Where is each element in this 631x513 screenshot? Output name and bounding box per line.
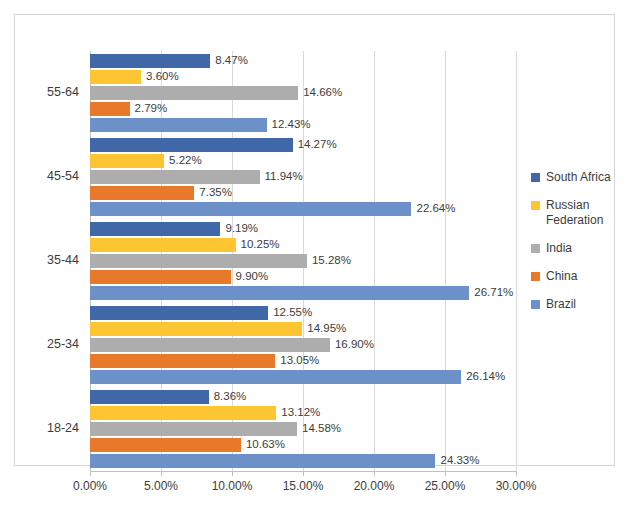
legend-swatch-icon: [531, 272, 540, 281]
category-label-18-24: 18-24: [47, 421, 79, 435]
x-tick-label: 20.00%: [354, 479, 395, 493]
category-label-55-64: 55-64: [47, 85, 79, 99]
bar-value-label: 2.79%: [135, 103, 168, 115]
bar-group-item[interactable]: 22.64%: [90, 202, 456, 216]
legend-swatch-icon: [531, 201, 540, 210]
bar-group-item[interactable]: 15.28%: [90, 254, 351, 268]
bar-value-label: 14.27%: [298, 139, 337, 151]
bar-group-item[interactable]: 14.58%: [90, 422, 341, 436]
bar-brazil[interactable]: [90, 454, 435, 468]
bar-group-item[interactable]: 9.90%: [90, 270, 268, 284]
bar-value-label: 14.58%: [302, 423, 341, 435]
bar-group-item[interactable]: 5.22%: [90, 154, 202, 168]
bar-china[interactable]: [90, 102, 130, 116]
bar-brazil[interactable]: [90, 202, 411, 216]
bar-group-item[interactable]: 8.36%: [90, 390, 246, 404]
bar-group-item[interactable]: 24.33%: [90, 454, 480, 468]
bar-group-item[interactable]: 3.60%: [90, 70, 179, 84]
legend-label: China: [546, 269, 577, 284]
bar-south-africa[interactable]: [90, 54, 210, 68]
bar-india[interactable]: [90, 86, 298, 100]
bar-group-item[interactable]: 10.63%: [90, 438, 285, 452]
bar-group-item[interactable]: 12.55%: [90, 306, 312, 320]
bar-value-label: 8.36%: [214, 391, 247, 403]
bar-russian-federation[interactable]: [90, 238, 236, 252]
legend-swatch-icon: [531, 244, 540, 253]
bar-china[interactable]: [90, 186, 194, 200]
x-tick: [516, 471, 517, 476]
x-tick-label: 10.00%: [212, 479, 253, 493]
bar-china[interactable]: [90, 270, 231, 284]
bar-value-label: 7.35%: [199, 187, 232, 199]
bar-south-africa[interactable]: [90, 222, 220, 236]
bar-value-label: 13.05%: [280, 355, 319, 367]
bar-india[interactable]: [90, 422, 297, 436]
bar-group-item[interactable]: 9.19%: [90, 222, 258, 236]
x-tick-label: 0.00%: [73, 479, 107, 493]
bar-value-label: 14.66%: [303, 87, 342, 99]
bar-south-africa[interactable]: [90, 306, 268, 320]
bar-china[interactable]: [90, 354, 275, 368]
bar-group-item[interactable]: 7.35%: [90, 186, 232, 200]
legend-label: Brazil: [546, 297, 576, 312]
bar-value-label: 16.90%: [335, 339, 374, 351]
bar-value-label: 14.95%: [307, 323, 346, 335]
legend-swatch-icon: [531, 300, 540, 309]
category-band: 8.47%3.60%14.66%2.79%12.43%: [90, 51, 516, 135]
bar-value-label: 26.71%: [474, 287, 513, 299]
category-band: 9.19%10.25%15.28%9.90%26.71%: [90, 219, 516, 303]
bar-group-item[interactable]: 26.14%: [90, 370, 505, 384]
bar-group-item[interactable]: 16.90%: [90, 338, 374, 352]
bar-group-item[interactable]: 8.47%: [90, 54, 248, 68]
bar-value-label: 24.33%: [440, 455, 479, 467]
bar-india[interactable]: [90, 170, 260, 184]
x-tick-label: 25.00%: [425, 479, 466, 493]
bar-group-item[interactable]: 13.05%: [90, 354, 319, 368]
plot-area: 8.47%3.60%14.66%2.79%12.43%14.27%5.22%11…: [90, 51, 516, 471]
bar-group-item[interactable]: 14.66%: [90, 86, 342, 100]
bar-value-label: 5.22%: [169, 155, 202, 167]
y-axis-category-labels: 55-6445-5435-4425-3418-24: [15, 51, 79, 471]
bar-value-label: 11.94%: [265, 171, 303, 183]
bar-value-label: 22.64%: [416, 203, 455, 215]
legend-item-south-africa[interactable]: South Africa: [531, 170, 615, 185]
category-label-45-54: 45-54: [47, 169, 79, 183]
legend-item-brazil[interactable]: Brazil: [531, 297, 615, 312]
bar-group-item[interactable]: 12.43%: [90, 118, 311, 132]
x-tick: [445, 471, 446, 476]
bar-group-item[interactable]: 13.12%: [90, 406, 320, 420]
bar-brazil[interactable]: [90, 118, 267, 132]
bar-value-label: 3.60%: [146, 71, 179, 83]
category-band: 14.27%5.22%11.94%7.35%22.64%: [90, 135, 516, 219]
bar-brazil[interactable]: [90, 370, 461, 384]
x-tick-label: 30.00%: [496, 479, 537, 493]
legend-swatch-icon: [531, 173, 540, 182]
bar-group-item[interactable]: 2.79%: [90, 102, 167, 116]
category-label-25-34: 25-34: [47, 337, 79, 351]
x-tick: [303, 471, 304, 476]
bar-russian-federation[interactable]: [90, 154, 164, 168]
bar-value-label: 13.12%: [281, 407, 320, 419]
bar-brazil[interactable]: [90, 286, 469, 300]
legend-item-china[interactable]: China: [531, 269, 615, 284]
legend-item-india[interactable]: India: [531, 241, 615, 256]
bar-group-item[interactable]: 26.71%: [90, 286, 513, 300]
bar-russian-federation[interactable]: [90, 406, 276, 420]
x-tick-label: 5.00%: [144, 479, 178, 493]
bar-south-africa[interactable]: [90, 138, 293, 152]
bar-india[interactable]: [90, 254, 307, 268]
x-tick: [232, 471, 233, 476]
bar-value-label: 12.43%: [272, 119, 311, 131]
chart-legend: South AfricaRussian FederationIndiaChina…: [531, 170, 615, 325]
bar-value-label: 8.47%: [215, 55, 248, 67]
bar-russian-federation[interactable]: [90, 322, 302, 336]
bar-group-item[interactable]: 14.95%: [90, 322, 346, 336]
bar-china[interactable]: [90, 438, 241, 452]
bar-group-item[interactable]: 14.27%: [90, 138, 337, 152]
bar-group-item[interactable]: 11.94%: [90, 170, 303, 184]
bar-russian-federation[interactable]: [90, 70, 141, 84]
bar-south-africa[interactable]: [90, 390, 209, 404]
bar-group-item[interactable]: 10.25%: [90, 238, 280, 252]
legend-item-russian-federation[interactable]: Russian Federation: [531, 198, 615, 228]
bar-india[interactable]: [90, 338, 330, 352]
